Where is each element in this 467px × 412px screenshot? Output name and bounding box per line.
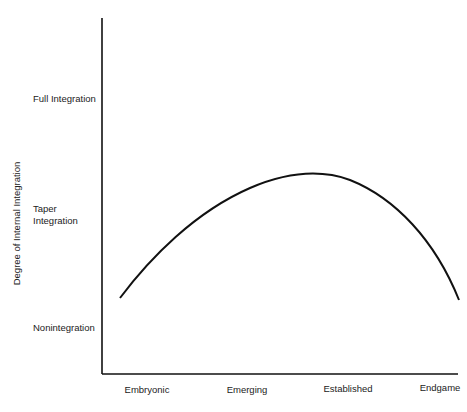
y-tick-nonintegration: Nonintegration — [33, 322, 95, 334]
x-tick-established: Established — [323, 383, 372, 395]
integration-curve — [120, 174, 459, 300]
y-tick-full-integration: Full Integration — [33, 93, 96, 105]
x-tick-embryonic: Embryonic — [125, 384, 170, 396]
y-tick-integration: Integration — [33, 215, 78, 227]
x-tick-endgame: Endgame — [420, 382, 461, 394]
y-axis-title: Degree of Internal Integration — [11, 144, 22, 304]
y-tick-taper: Taper — [33, 203, 57, 215]
chart-canvas — [0, 0, 467, 412]
x-tick-emerging: Emerging — [227, 384, 268, 396]
